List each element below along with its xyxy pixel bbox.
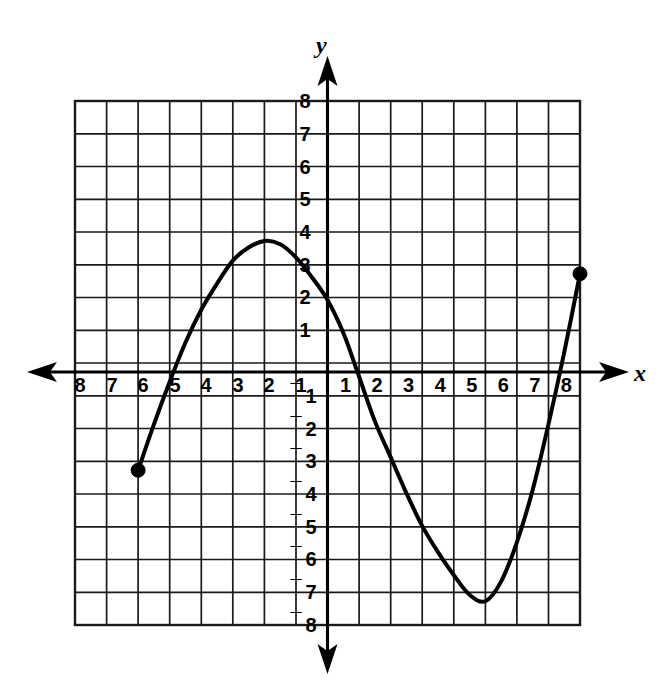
y-tick-neg3: 3: [305, 450, 316, 472]
x-tick-2: 2: [371, 374, 382, 396]
x-tick-4: 4: [435, 374, 447, 396]
x-tick-neg8: 8: [74, 374, 85, 396]
x-tick-neg6: 6: [137, 374, 148, 396]
x-tick-5: 5: [466, 374, 477, 396]
y-tick-neg2: 2: [305, 418, 316, 440]
x-tick-7: 7: [529, 374, 540, 396]
y-tick-neg1: 1: [305, 385, 316, 407]
x-axis-label: x: [633, 360, 646, 386]
y-tick-neg4-sign: ¯: [289, 478, 302, 500]
y-tick-labels-negative: ¯ 1 ¯ 2 ¯ 3 ¯ 4 ¯ 5 ¯ 6 ¯ 7 ¯ 8: [289, 380, 317, 636]
x-tick-neg4-sign: ¯: [186, 368, 199, 390]
y-tick-4: 4: [299, 221, 311, 243]
y-axis: [318, 56, 338, 674]
y-tick-neg5: 5: [305, 516, 316, 538]
y-tick-8: 8: [299, 90, 310, 112]
x-tick-neg4: 4: [200, 374, 212, 396]
x-tick-6: 6: [498, 374, 509, 396]
y-tick-6: 6: [299, 156, 310, 178]
y-tick-neg6-sign: ¯: [289, 543, 302, 565]
y-tick-neg7-sign: ¯: [289, 576, 302, 598]
y-tick-neg5-sign: ¯: [289, 511, 302, 533]
right-endpoint-dot: [573, 267, 587, 281]
y-tick-neg7: 7: [305, 581, 316, 603]
x-tick-neg3-sign: ¯: [218, 368, 231, 390]
y-tick-2: 2: [299, 286, 310, 308]
y-tick-7: 7: [299, 123, 310, 145]
x-tick-labels-positive: 1 2 3 4 5 6 7 8: [340, 374, 572, 396]
x-tick-neg1: 1: [295, 374, 306, 396]
y-tick-neg8: 8: [305, 614, 316, 636]
graph-figure: y x 8 7 6 5 4 3 2 1 ¯ 1 ¯ 2 ¯ 3 ¯ 4 ¯ 5 …: [0, 0, 664, 693]
y-axis-label: y: [313, 32, 327, 58]
x-tick-neg2-sign: ¯: [249, 368, 262, 390]
y-tick-neg8-sign: ¯: [289, 609, 302, 631]
x-tick-neg7-sign: ¯: [92, 368, 105, 390]
x-tick-neg6-sign: ¯: [123, 368, 136, 390]
x-tick-8: 8: [561, 374, 572, 396]
coordinate-plane: y x 8 7 6 5 4 3 2 1 ¯ 1 ¯ 2 ¯ 3 ¯ 4 ¯ 5 …: [0, 0, 664, 693]
x-tick-neg3: 3: [232, 374, 243, 396]
y-tick-neg4: 4: [305, 483, 317, 505]
left-endpoint-dot: [131, 463, 145, 477]
x-tick-neg1-sign: ¯: [281, 368, 294, 390]
y-tick-neg2-sign: ¯: [289, 413, 302, 435]
y-tick-1: 1: [299, 319, 310, 341]
y-tick-neg6: 6: [305, 548, 316, 570]
x-tick-1: 1: [340, 374, 351, 396]
y-tick-5: 5: [299, 188, 310, 210]
x-tick-neg7: 7: [106, 374, 117, 396]
x-tick-neg8-sign: ¯: [60, 368, 73, 390]
y-tick-labels-positive: 8 7 6 5 4 3 2 1: [299, 90, 311, 341]
x-tick-neg2: 2: [263, 374, 274, 396]
x-tick-3: 3: [403, 374, 414, 396]
y-tick-neg3-sign: ¯: [289, 445, 302, 467]
